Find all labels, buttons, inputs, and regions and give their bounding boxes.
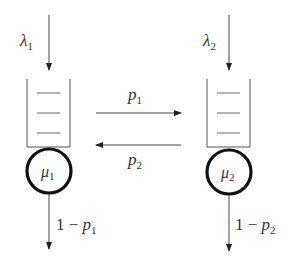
transfer-2-to-1: p2 — [96, 145, 181, 171]
queueing-diagram: λ1 μ1 1 − p1 p1 p2 λ2 μ2 1 − p2 — [0, 0, 296, 261]
transfer-prob-p2: p2 — [127, 150, 142, 171]
arrival-rate-1: λ1 — [19, 31, 33, 52]
exit-prob-1: 1 − p1 — [56, 215, 97, 236]
queue-1: λ1 μ1 1 − p1 — [19, 15, 97, 249]
exit-prob-2: 1 − p2 — [235, 215, 276, 236]
arrival-rate-2: λ2 — [202, 31, 216, 52]
transfer-prob-p1: p1 — [127, 85, 142, 106]
transfer-1-to-2: p1 — [96, 85, 181, 113]
queue-2: λ2 μ2 1 − p2 — [202, 15, 276, 251]
